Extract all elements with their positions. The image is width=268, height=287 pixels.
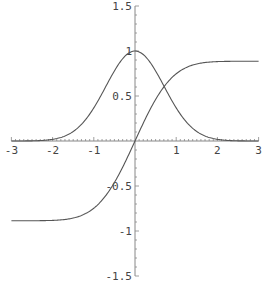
y-tick-label: -1.5 bbox=[106, 270, 133, 283]
x-tick-label: 1 bbox=[173, 144, 180, 157]
x-tick-label: -3 bbox=[5, 144, 18, 157]
x-tick-label: 3 bbox=[255, 144, 262, 157]
x-tick-label: -2 bbox=[46, 144, 59, 157]
y-tick-label: 0.5 bbox=[112, 90, 132, 103]
y-tick-label: 1.5 bbox=[112, 0, 132, 13]
plot-canvas: -3-2-11231.510.5-0.5-1-1.5 bbox=[0, 0, 268, 287]
y-tick-label: -1 bbox=[119, 225, 132, 238]
x-tick-label: -1 bbox=[87, 144, 100, 157]
x-tick-label: 2 bbox=[214, 144, 221, 157]
